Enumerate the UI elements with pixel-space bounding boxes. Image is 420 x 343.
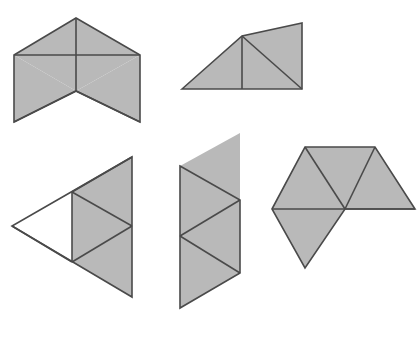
figure-canvas xyxy=(0,0,420,343)
bowtie-net-top-left xyxy=(14,18,140,122)
triangle-net-bottom-left xyxy=(12,157,132,297)
shapes-group xyxy=(12,18,415,308)
parallelogram-net-top-right xyxy=(182,23,302,89)
fan-net-bottom-right-face-bottom xyxy=(272,209,345,268)
zigzag-strip-net-bottom-middle xyxy=(180,133,240,308)
fan-net-bottom-right xyxy=(272,147,415,268)
triangle-nets-diagram xyxy=(0,0,420,343)
